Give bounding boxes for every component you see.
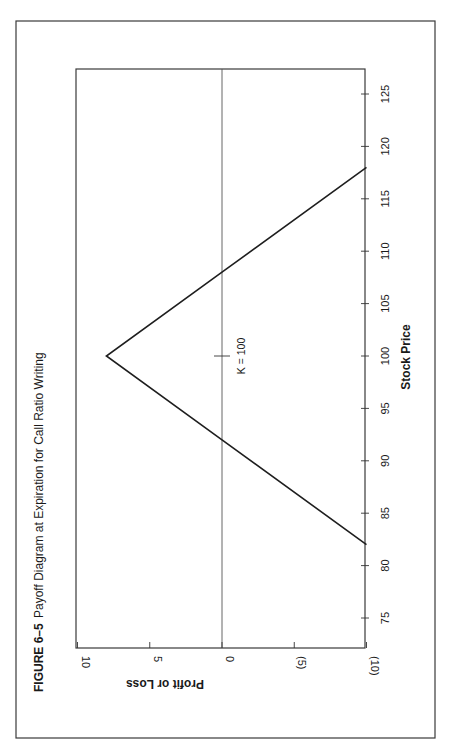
price-tick-label: 105 <box>379 294 391 312</box>
strike-annotation: K = 100 <box>235 338 247 375</box>
profit-tick-label: (5) <box>296 656 308 669</box>
plot-area <box>76 69 365 648</box>
profit-tick-label: (10) <box>369 656 381 676</box>
price-tick-label: 115 <box>379 190 391 208</box>
price-tick-label: 95 <box>379 402 391 414</box>
profit-axis: 1050(5)(10) <box>78 642 381 676</box>
price-tick-label: 75 <box>379 612 391 624</box>
price-axis-title: Stock Price <box>399 324 413 390</box>
profit-axis-title: Profit or Loss <box>126 677 204 691</box>
figure-number: FIGURE 6–5 <box>32 623 46 692</box>
outer-frame <box>16 21 435 738</box>
price-tick-label: 85 <box>379 507 391 519</box>
x-axis-label: Stock Price <box>399 324 413 390</box>
price-tick-label: 80 <box>379 559 391 571</box>
price-tick-label: 125 <box>379 85 391 103</box>
price-tick-label: 90 <box>379 455 391 467</box>
profit-tick-label: 0 <box>224 656 236 662</box>
figure-title: FIGURE 6–5 Payoff Diagram at Expiration … <box>32 352 46 692</box>
profit-tick-label: 5 <box>152 656 164 662</box>
figure-title-text: Payoff Diagram at Expiration for Call Ra… <box>32 352 46 618</box>
price-tick-label: 110 <box>379 242 391 260</box>
strike-label: K = 100 <box>235 338 247 375</box>
y-axis-label: Profit or Loss <box>126 677 204 691</box>
price-tick-label: 100 <box>379 347 391 365</box>
chart-figure: FIGURE 6–5 Payoff Diagram at Expiration … <box>0 0 452 751</box>
price-tick-label: 120 <box>379 137 391 155</box>
profit-tick-label: 10 <box>80 656 92 668</box>
